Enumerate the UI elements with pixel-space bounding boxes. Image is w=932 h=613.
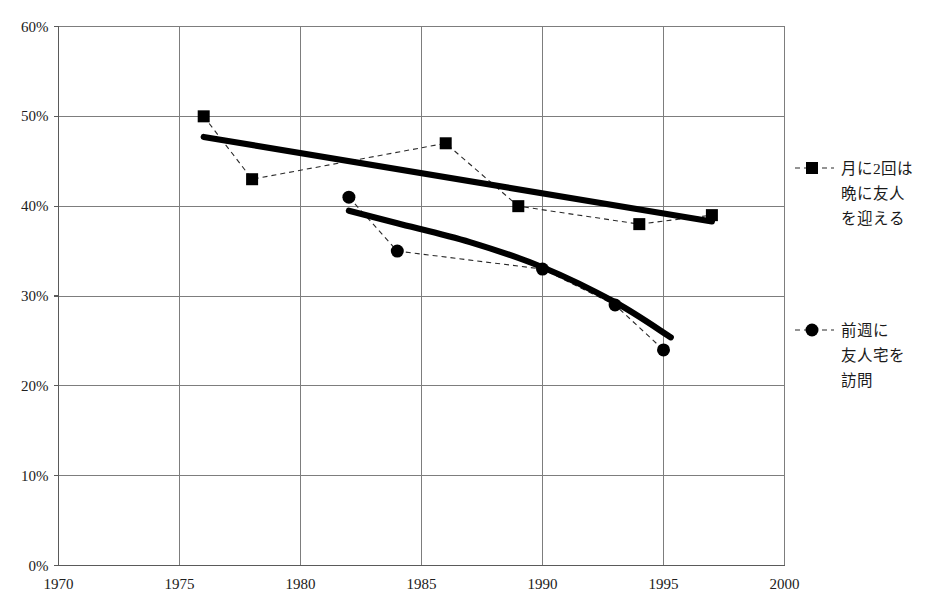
series-1 <box>198 110 718 230</box>
y-axis-tick-labels: 0%10%20%30%40%50%60% <box>21 19 49 574</box>
x-tick-label: 1970 <box>44 576 74 592</box>
legend-label-line: 訪問 <box>841 372 873 389</box>
x-tick-label: 1975 <box>165 576 195 592</box>
data-point-square-marker <box>246 173 258 185</box>
data-point-square-marker <box>198 110 210 122</box>
data-point-circle-marker <box>342 191 355 204</box>
data-point-circle-marker <box>657 343 670 356</box>
data-point-circle-marker <box>806 324 819 337</box>
legend-item-2[interactable]: 前週に友人宅を訪問 <box>795 322 905 389</box>
y-tick-label: 0% <box>29 558 49 574</box>
y-tick-label: 60% <box>21 19 49 35</box>
x-tick-label: 1990 <box>528 576 558 592</box>
chart-figure: 0%10%20%30%40%50%60% 1970197519801985199… <box>0 0 932 613</box>
chart-legend: 月に2回は晩に友人を迎える前週に友人宅を訪問 <box>795 160 913 389</box>
chart-canvas: 0%10%20%30%40%50%60% 1970197519801985199… <box>0 0 932 613</box>
x-tick-label: 1980 <box>286 576 316 592</box>
data-point-circle-marker <box>391 245 404 258</box>
data-series-layer <box>198 110 718 356</box>
series-trend-line <box>204 137 712 221</box>
x-tick-label: 1985 <box>407 576 437 592</box>
data-point-square-marker <box>706 209 718 221</box>
legend-item-1[interactable]: 月に2回は晩に友人を迎える <box>795 160 913 227</box>
y-tick-label: 50% <box>21 108 49 124</box>
x-tick-label: 2000 <box>770 576 800 592</box>
y-tick-label: 30% <box>21 288 49 304</box>
x-tick-label: 1995 <box>649 576 679 592</box>
y-tick-label: 40% <box>21 198 49 214</box>
data-point-square-marker <box>633 218 645 230</box>
data-point-square-marker <box>806 162 818 174</box>
legend-label-line: 晩に友人 <box>841 185 905 202</box>
series-2 <box>342 191 670 357</box>
series-trend-line <box>349 211 671 338</box>
data-point-square-marker <box>440 137 452 149</box>
legend-label-line: 友人宅を <box>841 347 905 364</box>
y-tick-label: 20% <box>21 378 49 394</box>
x-axis-tick-labels: 1970197519801985199019952000 <box>44 576 800 592</box>
y-tick-label: 10% <box>21 468 49 484</box>
legend-label-line: を迎える <box>841 210 905 227</box>
legend-label-line: 月に2回は <box>841 160 913 177</box>
data-point-square-marker <box>512 200 524 212</box>
legend-label-line: 前週に <box>841 322 889 339</box>
data-point-circle-marker <box>536 263 549 276</box>
data-point-circle-marker <box>609 298 622 311</box>
